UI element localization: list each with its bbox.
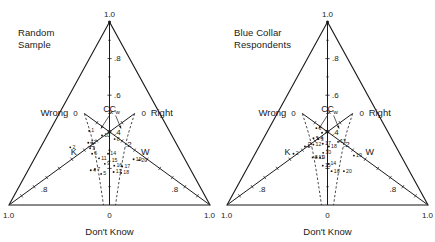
data-point-label: 20: [346, 168, 352, 174]
chart-text: 1.0: [3, 211, 15, 220]
chart-text: .6: [332, 91, 339, 100]
panel-title-blue-collar-respondents: Blue Collar Respondents: [234, 27, 291, 50]
data-point: [312, 144, 314, 146]
chart-text: Wrong: [41, 107, 69, 118]
data-point-label: 2: [296, 150, 299, 156]
data-point-layer: 1234567891011121314151617181920: [69, 127, 147, 176]
data-point: [101, 135, 103, 137]
data-point: [328, 145, 330, 147]
data-point: [133, 158, 135, 160]
data-point-label: 6: [94, 150, 97, 156]
data-point-label: 12: [90, 139, 96, 145]
data-point: [337, 141, 339, 143]
chart-text: 0: [291, 109, 296, 118]
data-point-label: 18: [123, 169, 129, 175]
chart-text: w: [332, 109, 338, 115]
data-point: [343, 170, 345, 172]
chart-marker: [326, 21, 329, 24]
data-point-label: 17: [124, 163, 130, 169]
data-point: [107, 153, 109, 155]
chart-text: 1.0: [221, 211, 233, 220]
data-point: [315, 127, 317, 129]
data-point: [91, 153, 93, 155]
data-point: [113, 171, 115, 173]
data-point-label: 17: [325, 140, 331, 146]
data-point-label: 10: [104, 132, 110, 138]
chart-text: 1.0: [422, 211, 434, 220]
data-point: [322, 143, 324, 145]
chart-text: 1.0: [204, 211, 216, 220]
data-point: [98, 157, 100, 159]
chart-text: Don't Know: [303, 226, 351, 237]
data-point: [353, 155, 355, 157]
region-label: K: [284, 147, 290, 157]
data-point-label: 14: [330, 160, 336, 166]
data-point: [87, 142, 89, 144]
data-point: [113, 165, 115, 167]
chart-marker: [108, 21, 111, 24]
chart-text: 1.0: [322, 10, 334, 19]
chart-text: .6: [114, 91, 121, 100]
chart-text: 1.0: [104, 10, 116, 19]
chart-text: 0: [107, 211, 112, 220]
data-point: [293, 153, 295, 155]
data-point-label: 4: [320, 135, 323, 141]
data-point: [94, 168, 96, 170]
data-point-label: 19: [356, 152, 362, 158]
data-point: [114, 138, 116, 140]
data-point-label: 18: [331, 143, 337, 149]
chart-text: .2: [125, 140, 132, 149]
data-point: [121, 166, 123, 168]
chart-text: .8: [172, 185, 179, 194]
data-point-label: 12: [316, 141, 322, 147]
chart-text: Don't Know: [85, 226, 133, 237]
data-point: [104, 163, 106, 165]
data-point: [89, 147, 91, 149]
data-point-label: 1: [91, 127, 94, 133]
data-point-label: 20: [141, 157, 147, 163]
data-point: [88, 130, 90, 132]
data-point-label: 14: [110, 150, 116, 156]
data-point: [100, 173, 102, 175]
chart-text: .8: [332, 54, 339, 63]
ternary-plot-figure: Random Sample 1.0.8.6.41.01.0000.2.2.8.8…: [0, 0, 435, 242]
chart-text: .8: [41, 185, 48, 194]
data-point: [120, 172, 122, 174]
data-point-label: 13: [340, 138, 346, 144]
data-point: [90, 169, 92, 171]
chart-text: 0: [359, 109, 364, 118]
chart-text: .8: [259, 185, 266, 194]
data-point-label: 11: [319, 154, 324, 160]
chart-text: w: [114, 109, 120, 115]
chart-text: .8: [390, 185, 397, 194]
panel-random-sample: Random Sample 1.0.8.6.41.01.0000.2.2.8.8…: [0, 0, 217, 242]
data-point: [331, 170, 333, 172]
data-point-label: 11: [101, 155, 106, 161]
data-point: [304, 145, 306, 147]
data-point-label: 5: [316, 135, 319, 141]
data-point-label: 2: [72, 144, 75, 150]
data-point-label: 5: [103, 170, 106, 176]
data-point-label: 7: [324, 129, 327, 135]
data-point-label: 7: [97, 166, 100, 172]
data-point: [313, 137, 315, 139]
chart-text: 0: [141, 109, 146, 118]
panel-title-random-sample: Random Sample: [18, 27, 55, 50]
region-label: W: [141, 147, 150, 157]
panel-blue-collar-respondents: Blue Collar Respondents 1.0.8.6.41.01.00…: [218, 0, 435, 242]
chart-text: .8: [114, 54, 121, 63]
data-point: [138, 159, 140, 161]
data-point-label: 16: [116, 162, 122, 168]
chart-text: Right: [151, 107, 174, 118]
data-point: [312, 156, 314, 158]
data-point: [109, 160, 111, 162]
data-point-label: 1: [307, 143, 310, 149]
data-point-label: 6: [319, 125, 322, 131]
chart-text: 0: [325, 211, 330, 220]
region-label: W: [366, 147, 375, 157]
data-point: [315, 156, 317, 158]
chart-text: 0: [73, 109, 78, 118]
data-point: [69, 146, 71, 148]
data-point-label: 16: [334, 168, 340, 174]
chart-text: Wrong: [259, 107, 287, 118]
